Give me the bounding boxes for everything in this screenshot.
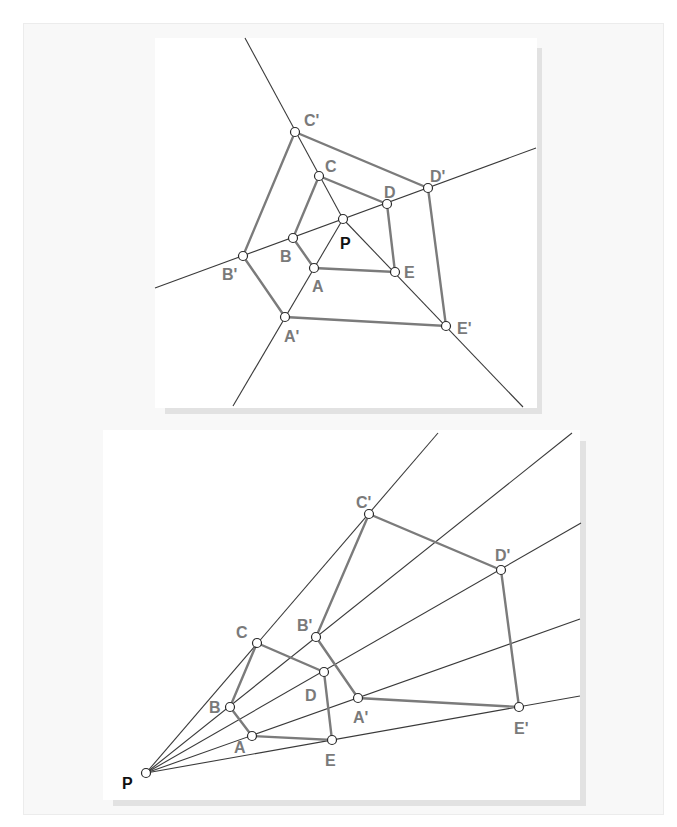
label-e: E <box>404 264 415 281</box>
label-c-prime: C' <box>304 112 319 129</box>
label-d: D <box>384 184 396 201</box>
center-label-p: P <box>122 775 133 792</box>
center-point-p <box>339 215 348 224</box>
point-a-prime <box>354 694 363 703</box>
label-a-prime: A' <box>353 709 368 726</box>
top-points <box>239 128 451 331</box>
point-c-prime <box>291 128 300 137</box>
point-a <box>248 732 257 741</box>
center-point-p <box>142 769 151 778</box>
label-d-prime: D' <box>495 547 510 564</box>
point-e <box>328 736 337 745</box>
label-b: B <box>209 699 221 716</box>
dilation-diagrams: ABCDEA'B'C'D'E'P ABCDEA'B'C'D'E'P <box>0 0 677 827</box>
point-d-prime <box>497 566 506 575</box>
point-d <box>320 668 329 677</box>
point-a-prime <box>281 313 290 322</box>
point-b-prime <box>312 633 321 642</box>
point-b-prime <box>239 252 248 261</box>
ray-through-a <box>146 619 580 773</box>
label-b: B <box>280 248 292 265</box>
point-b <box>226 703 235 712</box>
point-e <box>391 268 400 277</box>
point-b <box>289 234 298 243</box>
label-a: A <box>312 278 324 295</box>
ray-through-c <box>146 433 438 773</box>
label-a: A <box>234 739 246 756</box>
label-e-prime: E' <box>457 320 471 337</box>
point-c <box>253 639 262 648</box>
bottom-labels: ABCDEA'B'C'D'E'P <box>122 494 528 792</box>
point-e-prime <box>515 703 524 712</box>
image-pentagon <box>243 132 446 326</box>
label-d-prime: D' <box>430 168 445 185</box>
label-a-prime: A' <box>284 328 299 345</box>
bottom-edges <box>230 514 519 740</box>
label-b-prime: B' <box>297 617 312 634</box>
point-c <box>315 172 324 181</box>
point-e-prime <box>442 322 451 331</box>
label-e-prime: E' <box>514 720 528 737</box>
bottom-points <box>142 510 524 778</box>
ray-through-e <box>343 219 523 407</box>
label-c-prime: C' <box>356 494 371 511</box>
label-b-prime: B' <box>222 266 237 283</box>
top-edges <box>243 132 446 326</box>
center-label-p: P <box>340 235 351 252</box>
label-d: D <box>305 687 317 704</box>
label-c: C <box>325 158 337 175</box>
label-e: E <box>325 752 336 769</box>
bottom-diagram: ABCDEA'B'C'D'E'P <box>122 433 581 792</box>
label-c: C <box>236 624 248 641</box>
top-diagram: ABCDEA'B'C'D'E'P <box>155 38 536 407</box>
image-pentagon <box>316 514 519 707</box>
point-a <box>310 264 319 273</box>
